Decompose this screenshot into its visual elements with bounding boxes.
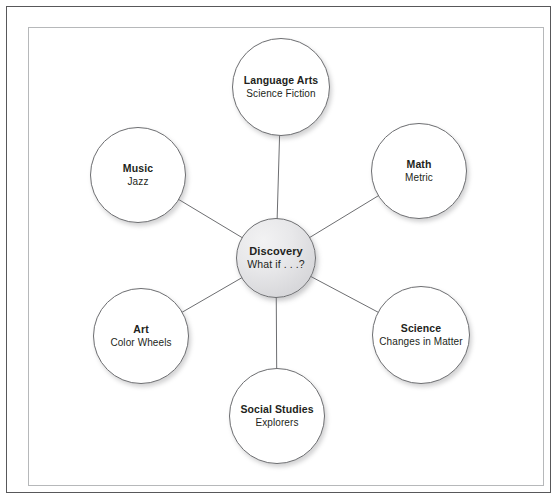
- node-subtitle: Changes in Matter: [379, 335, 462, 348]
- node-title: Discovery: [249, 245, 303, 258]
- connector-discovery-to-science: [310, 276, 378, 312]
- concept-node-social-studies[interactable]: Social StudiesExplorers: [229, 368, 325, 464]
- node-title: Social Studies: [240, 403, 313, 416]
- concept-node-language-arts[interactable]: Language ArtsScience Fiction: [232, 38, 330, 136]
- concept-web-diagram: Language ArtsScience FictionMathMetricSc…: [0, 0, 558, 500]
- node-title: Science: [401, 322, 441, 335]
- node-title: Language Arts: [244, 74, 318, 87]
- node-subtitle: Science Fiction: [246, 87, 315, 100]
- node-title: Art: [133, 323, 148, 336]
- concept-node-music[interactable]: MusicJazz: [90, 127, 186, 223]
- connector-discovery-to-language-arts: [277, 135, 279, 219]
- concept-node-science[interactable]: ScienceChanges in Matter: [372, 286, 470, 384]
- node-subtitle: Color Wheels: [110, 336, 171, 349]
- concept-node-math[interactable]: MathMetric: [371, 123, 467, 219]
- node-title: Music: [123, 162, 153, 175]
- node-subtitle: Metric: [405, 171, 433, 184]
- node-subtitle: Jazz: [128, 175, 149, 188]
- node-title: Math: [407, 158, 432, 171]
- diagram-page: Language ArtsScience FictionMathMetricSc…: [0, 0, 558, 500]
- concept-node-art[interactable]: ArtColor Wheels: [93, 288, 189, 384]
- concept-node-discovery[interactable]: DiscoveryWhat if . . .?: [236, 218, 316, 298]
- node-subtitle: What if . . .?: [247, 258, 304, 271]
- connector-discovery-to-math: [309, 195, 379, 237]
- node-subtitle: Explorers: [255, 416, 298, 429]
- connector-discovery-to-music: [178, 199, 242, 238]
- connector-discovery-to-art: [182, 278, 243, 313]
